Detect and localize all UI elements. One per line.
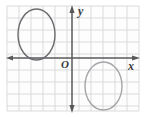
- x-axis-label: x: [127, 59, 134, 73]
- coordinate-plane-graphic: y x O: [0, 0, 145, 117]
- y-axis-label: y: [76, 4, 84, 18]
- origin-label: O: [61, 58, 69, 70]
- figure-root: y x O: [0, 0, 145, 117]
